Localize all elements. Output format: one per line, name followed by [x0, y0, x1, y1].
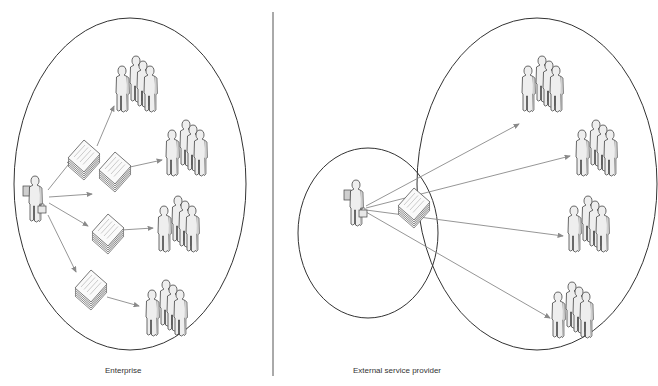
- user-group-icon: [116, 56, 158, 112]
- businessperson-icon: [344, 180, 367, 226]
- enterprise-panel: [14, 18, 246, 350]
- user-group-icon: [552, 282, 594, 338]
- document-stack-icon: [99, 152, 131, 192]
- user-group-icon: [146, 280, 188, 336]
- user-group-icon: [166, 120, 208, 176]
- provider-arrows: [366, 124, 570, 318]
- businessperson-icon: [23, 176, 46, 222]
- external-provider-panel: [298, 18, 657, 350]
- enterprise-boundary: [14, 18, 246, 350]
- document-stack-icon: [75, 270, 107, 310]
- document-stack-icon: [68, 140, 100, 180]
- user-group-icon: [568, 196, 610, 252]
- document-stack-icon: [398, 188, 430, 228]
- user-group-icon: [522, 56, 564, 112]
- user-group-icon: [576, 120, 618, 176]
- user-group-icon: [158, 196, 200, 252]
- document-stack-icon: [92, 214, 124, 254]
- external-provider-caption: External service provider: [353, 366, 441, 375]
- enterprise-arrows: [48, 106, 162, 306]
- diagram-canvas: [0, 0, 658, 386]
- enterprise-caption: Enterprise: [105, 366, 141, 375]
